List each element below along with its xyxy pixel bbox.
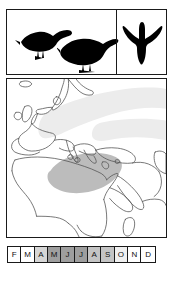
month-cell-6: J bbox=[75, 247, 88, 262]
month-label: D bbox=[145, 251, 151, 259]
breeding-range-shading bbox=[38, 87, 166, 141]
month-cell-9: O bbox=[115, 247, 128, 262]
month-cell-5: J bbox=[61, 247, 74, 262]
perched-bird-2-silhouette bbox=[57, 32, 119, 74]
month-label: A bbox=[92, 251, 97, 259]
month-label: A bbox=[38, 251, 43, 259]
species-distribution-figure: FMAMJJASOND bbox=[0, 0, 174, 281]
month-cell-10: N bbox=[128, 247, 141, 262]
flight-silhouette-cell bbox=[116, 10, 166, 74]
month-cell-8: S bbox=[101, 247, 114, 262]
month-cell-2: M bbox=[21, 247, 34, 262]
month-label: M bbox=[51, 251, 58, 259]
month-cell-11: D bbox=[141, 247, 154, 262]
month-cell-4: M bbox=[48, 247, 61, 262]
silhouette-panel bbox=[6, 9, 167, 75]
flying-bird-silhouette bbox=[122, 18, 164, 68]
month-label: J bbox=[79, 251, 83, 259]
distribution-map bbox=[6, 78, 167, 238]
month-label: J bbox=[66, 251, 70, 259]
month-label: O bbox=[118, 251, 124, 259]
month-occurrence-bar: FMAMJJASOND bbox=[7, 246, 156, 263]
month-cell-3: A bbox=[35, 247, 48, 262]
month-label: S bbox=[105, 251, 110, 259]
map-canvas bbox=[7, 79, 166, 237]
month-label: N bbox=[131, 251, 137, 259]
month-cell-1: F bbox=[8, 247, 21, 262]
month-label: F bbox=[12, 251, 17, 259]
month-cell-7: A bbox=[88, 247, 101, 262]
month-label: M bbox=[24, 251, 31, 259]
